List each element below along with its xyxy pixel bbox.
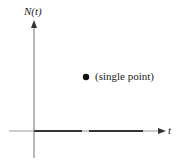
point-annotation: (single point) xyxy=(95,70,154,82)
x-axis-label: t xyxy=(168,124,171,136)
x-axis-arrowhead-icon xyxy=(158,128,166,134)
single-point-marker xyxy=(83,74,89,80)
y-axis-label: N(t) xyxy=(24,5,42,17)
y-axis-arrowhead-icon xyxy=(31,20,37,28)
